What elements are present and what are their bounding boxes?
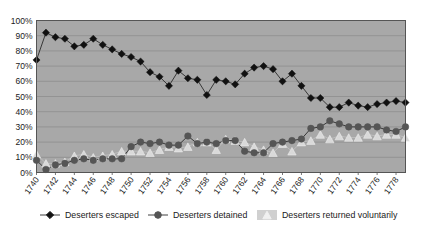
x-axis-tick-label: 1774 xyxy=(344,175,363,196)
y-axis-tick-label: 90% xyxy=(15,31,32,41)
data-point-marker xyxy=(109,156,116,163)
y-axis-tick-label: 80% xyxy=(15,46,32,56)
y-axis-tick-label: 70% xyxy=(15,61,32,71)
data-point-marker xyxy=(166,142,173,149)
diamond-marker-icon xyxy=(46,211,53,218)
x-axis-tick-label: 1748 xyxy=(98,175,117,196)
data-point-marker xyxy=(62,160,69,167)
data-point-marker xyxy=(137,139,144,146)
data-point-marker xyxy=(118,156,125,163)
x-axis-tick-label: 1768 xyxy=(287,175,306,196)
legend-item: Deserters escaped xyxy=(40,210,139,220)
data-point-marker xyxy=(81,156,88,163)
x-axis-tick-label: 1766 xyxy=(268,175,287,196)
chart-container: 0%10%20%30%40%50%60%70%80%90%100% 174017… xyxy=(0,0,424,237)
y-axis-tick-label: 60% xyxy=(15,76,32,86)
data-point-marker xyxy=(336,121,343,128)
data-point-marker xyxy=(185,133,192,140)
data-point-marker xyxy=(156,139,163,146)
data-point-marker xyxy=(308,125,315,132)
data-point-marker xyxy=(374,124,381,131)
data-point-marker xyxy=(260,149,267,156)
x-axis-tick-label: 1756 xyxy=(173,175,192,196)
x-axis-tick-label: 1742 xyxy=(41,175,60,196)
x-axis-tick-label: 1750 xyxy=(117,175,136,196)
line-chart: 0%10%20%30%40%50%60%70%80%90%100% 174017… xyxy=(0,0,424,237)
data-point-marker xyxy=(327,118,334,125)
x-axis-tick-label: 1758 xyxy=(192,175,211,196)
data-point-marker xyxy=(52,162,59,169)
data-point-marker xyxy=(289,137,296,144)
x-axis-tick-label: 1776 xyxy=(363,175,382,196)
x-axis-tick-label: 1744 xyxy=(60,175,79,196)
y-axis-tick-label: 30% xyxy=(15,122,32,132)
data-point-marker xyxy=(204,139,211,146)
x-axis-tick-label: 1754 xyxy=(155,175,174,196)
data-point-marker xyxy=(383,127,390,134)
y-axis-tick-labels: 0%10%20%30%40%50%60%70%80%90%100% xyxy=(11,16,33,178)
legend-label: Deserters escaped xyxy=(65,210,139,220)
y-axis-tick-label: 10% xyxy=(15,152,32,162)
data-point-marker xyxy=(298,136,305,143)
legend-item: Deserters detained xyxy=(148,210,247,220)
data-point-marker xyxy=(222,137,229,144)
y-axis-tick-label: 100% xyxy=(11,16,33,26)
x-axis-tick-label: 1772 xyxy=(325,175,344,196)
legend-label: Deserters detained xyxy=(173,210,247,220)
data-point-marker xyxy=(232,137,239,144)
data-point-marker xyxy=(43,166,50,173)
circle-marker-icon xyxy=(155,212,162,219)
data-point-marker xyxy=(345,124,352,131)
x-axis-tick-label: 1740 xyxy=(22,175,41,196)
data-point-marker xyxy=(99,156,106,163)
data-point-marker xyxy=(355,124,362,131)
legend-label: Deserters returned voluntarily xyxy=(282,210,398,220)
data-point-marker xyxy=(175,142,182,149)
y-axis-tick-label: 20% xyxy=(15,137,32,147)
data-point-marker xyxy=(147,140,154,147)
data-point-marker xyxy=(71,157,78,164)
data-point-marker xyxy=(251,149,258,156)
data-point-marker xyxy=(213,140,220,147)
data-point-marker xyxy=(194,140,201,147)
y-axis-tick-label: 50% xyxy=(15,92,32,102)
x-axis-tick-label: 1762 xyxy=(230,175,249,196)
data-point-marker xyxy=(317,124,324,131)
data-point-marker xyxy=(364,124,371,131)
data-point-marker xyxy=(90,157,97,164)
data-point-marker xyxy=(270,140,277,147)
x-axis-tick-labels: 1740174217441746174817501752175417561758… xyxy=(22,175,401,196)
x-axis-tick-label: 1752 xyxy=(136,175,155,196)
data-point-marker xyxy=(279,139,286,146)
x-axis-tick-label: 1746 xyxy=(79,175,98,196)
x-axis-tick-label: 1760 xyxy=(211,175,230,196)
data-point-marker xyxy=(393,128,400,135)
x-axis-tick-label: 1764 xyxy=(249,175,268,196)
data-point-marker xyxy=(241,148,248,155)
data-point-marker xyxy=(128,143,135,150)
x-axis-tick-label: 1770 xyxy=(306,175,325,196)
chart-legend: Deserters escapedDeserters detainedDeser… xyxy=(40,210,398,220)
x-axis-tick-label: 1778 xyxy=(382,175,401,196)
y-axis-tick-label: 40% xyxy=(15,107,32,117)
legend-item: Deserters returned voluntarily xyxy=(257,210,398,220)
